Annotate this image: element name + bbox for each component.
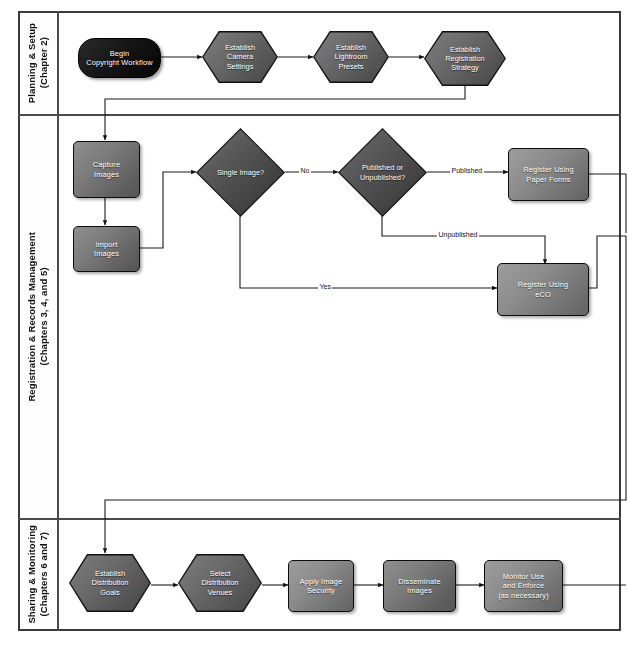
node-registration-strategy-label: Establish Registration Strategy xyxy=(445,45,484,73)
diagram-frame xyxy=(18,11,621,631)
node-establish-lightroom-presets[interactable]: Establish Lightroom Presets xyxy=(313,31,389,83)
node-security-label: Apply Image Security xyxy=(300,577,343,595)
node-import-images[interactable]: Import Images xyxy=(73,226,140,272)
node-single-image-decision[interactable]: Single Image? xyxy=(196,128,285,217)
node-register-using-eco[interactable]: Register Using eCO xyxy=(497,263,589,316)
node-import-label: Import Images xyxy=(94,240,119,258)
node-paper-forms-label: Register Using Paper Forms xyxy=(523,165,574,183)
node-disseminate-label: Disseminate Images xyxy=(398,577,440,595)
edge-label-unpublished: Unpublished xyxy=(437,231,479,239)
node-monitor-label: Monitor Use and Enforce (as necessary) xyxy=(498,572,549,600)
edge-label-published: Published xyxy=(450,167,484,175)
lane-title-sharing-label: Sharing & Monitoring (Chapters 6 and 7) xyxy=(26,525,50,624)
lane-title-planning-label: Planning & Setup (Chapter 2) xyxy=(26,23,50,103)
node-pub-unpub-label: Published or Unpublished? xyxy=(360,163,405,182)
node-lightroom-label: Establish Lightroom Presets xyxy=(335,43,368,71)
node-eco-label: Register Using eCO xyxy=(518,280,569,298)
edge-label-no: No xyxy=(299,167,311,175)
node-begin-label: Begin Copyright Workflow xyxy=(86,49,153,67)
node-establish-distribution-goals[interactable]: Establish Distribution Goals xyxy=(69,554,151,612)
node-establish-registration-strategy[interactable]: Establish Registration Strategy xyxy=(424,31,506,86)
node-apply-image-security[interactable]: Apply Image Security xyxy=(288,560,354,612)
lane-divider-2 xyxy=(18,518,621,520)
figure-caption xyxy=(16,640,616,647)
lane-title-sharing: Sharing & Monitoring (Chapters 6 and 7) xyxy=(20,520,56,629)
node-register-using-paper-forms[interactable]: Register Using Paper Forms xyxy=(508,148,589,201)
node-single-image-label: Single Image? xyxy=(217,168,264,177)
node-camera-label: Establish Camera Settings xyxy=(225,43,255,71)
lane-title-registration: Registration & Records Management (Chapt… xyxy=(20,116,56,518)
node-distgoals-label: Establish Distribution Goals xyxy=(92,569,129,597)
flowchart-canvas: Planning & Setup (Chapter 2) Registratio… xyxy=(0,0,629,647)
node-capture-label: Capture Images xyxy=(93,160,120,178)
node-distvenues-label: Select Distribution Venues xyxy=(202,569,239,597)
node-published-or-unpublished-decision[interactable]: Published or Unpublished? xyxy=(338,128,427,217)
node-begin-copyright-workflow[interactable]: Begin Copyright Workflow xyxy=(78,38,161,78)
node-capture-images[interactable]: Capture Images xyxy=(73,141,140,198)
node-monitor-use-and-enforce[interactable]: Monitor Use and Enforce (as necessary) xyxy=(484,560,563,612)
lane-title-registration-label: Registration & Records Management (Chapt… xyxy=(26,232,50,402)
node-disseminate-images[interactable]: Disseminate Images xyxy=(383,560,456,612)
node-establish-camera-settings[interactable]: Establish Camera Settings xyxy=(202,31,278,83)
edge-label-yes: Yes xyxy=(318,283,332,291)
lane-divider-1 xyxy=(18,114,621,116)
node-select-distribution-venues[interactable]: Select Distribution Venues xyxy=(178,554,262,612)
lane-title-planning: Planning & Setup (Chapter 2) xyxy=(20,13,56,114)
lane-title-rule xyxy=(57,11,59,631)
